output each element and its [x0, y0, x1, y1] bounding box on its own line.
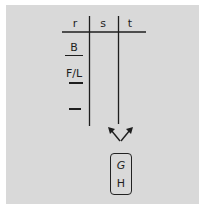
entry-b: B: [65, 42, 83, 56]
fork-arrows-icon: [111, 130, 130, 141]
entry-f-l: F/L: [64, 68, 84, 81]
header-s: s: [96, 18, 110, 29]
box-label-g: G: [110, 160, 132, 171]
entry-blank-dash: [69, 108, 81, 110]
box-label-h: H: [110, 178, 132, 189]
diagram-lines: [0, 0, 204, 209]
header-r: r: [68, 18, 82, 29]
header-t: t: [123, 18, 137, 29]
entry-f-l-underline: [69, 82, 83, 84]
